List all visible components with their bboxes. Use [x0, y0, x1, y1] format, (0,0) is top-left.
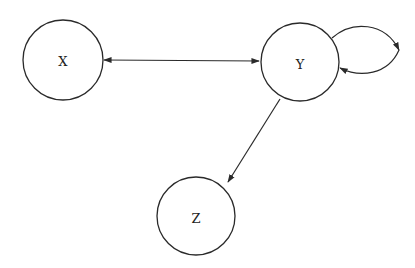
node-x[interactable]: X [23, 20, 103, 100]
y-to-z-arrow [228, 99, 280, 182]
node-z-label: Z [191, 211, 200, 226]
edge-y-self-loop [332, 26, 399, 73]
graph-svg: X Y Z [0, 0, 415, 268]
edge-x-y-bidirectional [104, 60, 259, 61]
bidirectional-arrow [104, 60, 259, 61]
graph-diagram: X Y Z [0, 0, 415, 268]
node-x-label: X [58, 54, 68, 69]
self-loop-lower-arrow [340, 50, 399, 73]
edge-y-z [228, 99, 280, 182]
node-z[interactable]: Z [157, 177, 235, 255]
self-loop-upper-arrow [332, 26, 399, 50]
node-y-label: Y [295, 57, 305, 72]
node-y[interactable]: Y [261, 23, 339, 101]
